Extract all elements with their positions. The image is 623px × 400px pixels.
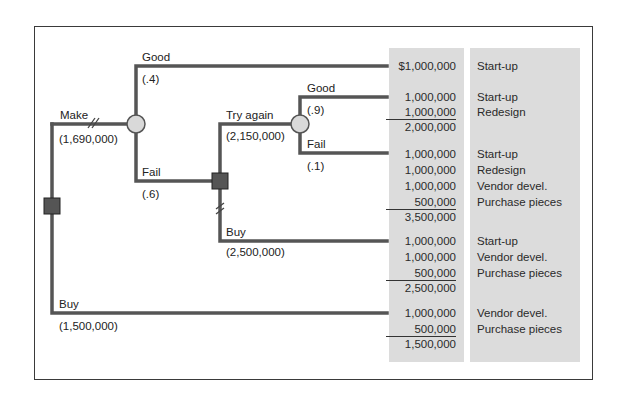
- outcome-amount: 1,000,000: [386, 178, 456, 194]
- outcome-amount: 1,000,000: [386, 249, 456, 265]
- outcome-desc: Purchase pieces: [477, 194, 562, 210]
- good2-prob: (.9): [307, 104, 324, 117]
- good2-label: Good: [307, 82, 335, 95]
- outcome-total: 1,500,000: [386, 336, 456, 352]
- buy2-label: Buy: [226, 226, 246, 239]
- outcome-amount: 1,000,000: [386, 89, 456, 105]
- chance-node-try-again-icon: [291, 115, 309, 133]
- outcome-desc: Start-up: [477, 233, 518, 249]
- fail1-prob: (.6): [142, 188, 159, 201]
- outcome-total: 3,500,000: [386, 209, 456, 225]
- buy2-value: (2,500,000): [226, 246, 285, 259]
- outcome-desc: Vendor devel.: [477, 249, 547, 265]
- buy1-label: Buy: [59, 298, 79, 311]
- outcome-desc: Redesign: [477, 162, 526, 178]
- outcome-amount: 500,000: [386, 194, 456, 210]
- outcome-desc: Purchase pieces: [477, 321, 562, 337]
- try-again-value: (2,150,000): [226, 130, 285, 143]
- outcome-amount: 500,000: [386, 321, 456, 337]
- fail2-label: Fail: [307, 138, 326, 151]
- outcome-amount: 1,000,000: [386, 305, 456, 321]
- try-again-label: Try again: [226, 109, 274, 122]
- make-value: (1,690,000): [59, 133, 118, 146]
- buy1-value: (1,500,000): [59, 320, 118, 333]
- fail1-label: Fail: [142, 166, 161, 179]
- decision-node-fail-icon: [212, 173, 228, 189]
- make-label: Make: [60, 109, 88, 122]
- outcome-amount: 1,000,000: [386, 146, 456, 162]
- decision-node-root-icon: [44, 198, 60, 214]
- outcome-total: 2,000,000: [386, 119, 456, 135]
- good1-prob: (.4): [142, 73, 159, 86]
- outcome-desc: Purchase pieces: [477, 265, 562, 281]
- outcome-desc: Vendor devel.: [477, 305, 547, 321]
- outcome-amount: 1,000,000: [386, 233, 456, 249]
- outcome-desc: Redesign: [477, 104, 526, 120]
- outcome-desc: Start-up: [477, 146, 518, 162]
- outcome-desc: Start-up: [477, 89, 518, 105]
- outcome-total: 2,500,000: [386, 280, 456, 296]
- fail2-prob: (.1): [307, 160, 324, 173]
- outcome-amount: $1,000,000: [386, 58, 456, 74]
- chance-node-make-icon: [127, 115, 145, 133]
- outcome-amount: 500,000: [386, 265, 456, 281]
- good1-label: Good: [142, 51, 170, 64]
- outcome-desc: Start-up: [477, 58, 518, 74]
- outcome-amount: 1,000,000: [386, 162, 456, 178]
- outcome-desc: Vendor devel.: [477, 178, 547, 194]
- outcome-amount: 1,000,000: [386, 104, 456, 120]
